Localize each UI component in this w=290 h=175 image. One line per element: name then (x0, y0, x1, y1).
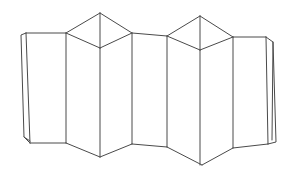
bottom-edge-peak1-left (66, 143, 100, 157)
top-edge-chain (26, 13, 266, 37)
bottom-edge-chain (30, 143, 268, 165)
bottom-edge-peak1-right (100, 144, 132, 157)
accordion-fold-drawing: Accordion folded sheet Line drawing of a… (0, 0, 290, 175)
figure-container: Accordion folded sheet Line drawing of a… (0, 0, 290, 175)
panel-face-valley1-left (132, 33, 167, 147)
bottom-edge-peak2-right (202, 148, 233, 165)
bottom-edge-peak2-left (167, 147, 202, 165)
panel-face-peak2-right (233, 37, 268, 148)
panel-face-left-end (26, 33, 66, 143)
